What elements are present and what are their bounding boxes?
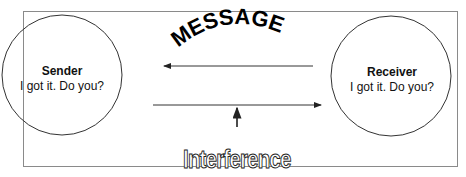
message-label: MESSAGE <box>166 4 287 52</box>
receiver-text: I got it. Do you? <box>336 80 448 94</box>
sender-title: Sender <box>6 64 118 78</box>
receiver-label: Receiver I got it. Do you? <box>336 65 448 94</box>
sender-text: I got it. Do you? <box>6 79 118 93</box>
receiver-title: Receiver <box>336 65 448 79</box>
interference-label: Interference <box>183 145 291 174</box>
sender-label: Sender I got it. Do you? <box>6 64 118 93</box>
message-label-path: MESSAGE <box>166 4 287 52</box>
